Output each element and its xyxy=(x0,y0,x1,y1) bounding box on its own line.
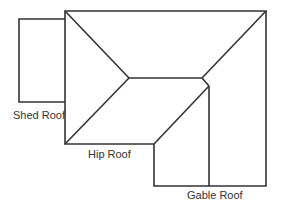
valley-notch xyxy=(202,78,209,86)
hip-ridge-top-right xyxy=(202,11,266,78)
roof-diagram: Shed Roof Hip Roof Gable Roof xyxy=(0,0,283,205)
hip-ridge-bottom-left xyxy=(65,78,129,144)
valley-line xyxy=(154,86,209,144)
roof-plan-drawing xyxy=(0,0,283,205)
shed-roof-label: Shed Roof xyxy=(13,109,65,121)
hip-roof-label: Hip Roof xyxy=(88,148,131,160)
gable-roof-label: Gable Roof xyxy=(187,189,243,201)
hip-ridge-top-left xyxy=(65,11,129,78)
shed-roof-outline xyxy=(19,19,65,102)
